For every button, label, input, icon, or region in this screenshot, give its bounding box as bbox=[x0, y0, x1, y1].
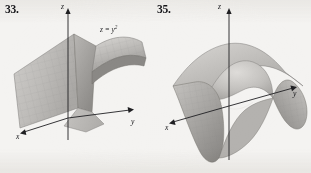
textbook-figure-page: 33. bbox=[0, 0, 311, 173]
surface-front-skirt bbox=[64, 108, 104, 132]
figure-33-z-axis-label: z bbox=[61, 3, 64, 11]
figure-33-x-axis-label: x bbox=[16, 133, 19, 141]
y-axis-arrowhead bbox=[128, 107, 134, 113]
surface-left-well-mesh bbox=[173, 82, 224, 162]
figure-33-y-axis-label: y bbox=[131, 118, 134, 126]
figure-35-y-axis-label: y bbox=[293, 90, 296, 98]
x-axis-arrowhead bbox=[169, 119, 176, 125]
figure-35-plot bbox=[155, 0, 311, 173]
z-axis-arrowhead bbox=[65, 8, 70, 14]
figure-35-z-axis-label: z bbox=[218, 3, 221, 11]
figure-35-x-axis-label: x bbox=[165, 124, 168, 132]
figure-33: 33. bbox=[0, 0, 155, 173]
x-axis-arrowhead bbox=[20, 129, 26, 135]
figure-35: 35. bbox=[155, 0, 311, 173]
surface-right-well-mesh bbox=[273, 80, 307, 129]
figure-33-plot bbox=[0, 0, 155, 173]
figure-33-equation: z = y2 bbox=[100, 26, 117, 33]
z-axis-arrowhead bbox=[226, 8, 231, 14]
